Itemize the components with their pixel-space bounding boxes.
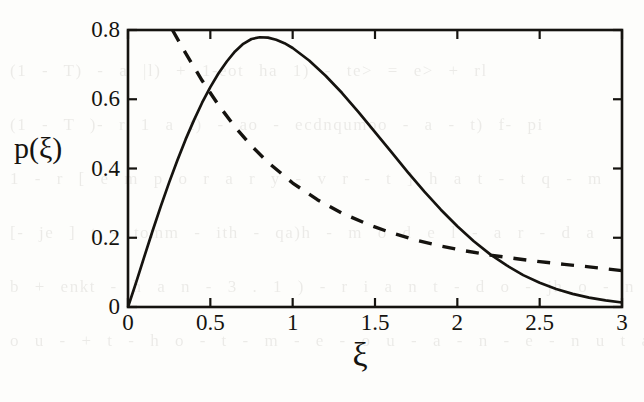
y-tick-label: 0.2 <box>91 225 120 251</box>
y-tick-label: 0 <box>109 294 121 320</box>
data-curves <box>128 30 622 307</box>
x-tick-label: 1 <box>287 310 299 336</box>
x-tick-label: 3 <box>616 310 628 336</box>
chart-plot-area <box>0 0 644 402</box>
curve-dashed <box>172 30 622 271</box>
axis-ticks <box>128 30 622 307</box>
probability-density-chart: p(ξ) ξ 00.20.40.60.8 00.511.522.53 <box>0 0 644 402</box>
y-axis-label: p(ξ) <box>14 131 62 165</box>
x-axis-label: ξ <box>352 336 367 374</box>
x-tick-label: 2.5 <box>525 310 554 336</box>
axis-frame <box>128 30 622 307</box>
figure-page: (1 - T) - a |l) + 1-eot ha 1) - te> = e>… <box>0 0 644 402</box>
x-tick-label: 1.5 <box>361 310 390 336</box>
x-tick-label: 0 <box>122 310 134 336</box>
y-tick-label: 0.8 <box>91 17 120 43</box>
y-tick-label: 0.6 <box>91 86 120 112</box>
y-tick-label: 0.4 <box>91 156 120 182</box>
x-tick-label: 0.5 <box>196 310 225 336</box>
x-tick-label: 2 <box>452 310 464 336</box>
